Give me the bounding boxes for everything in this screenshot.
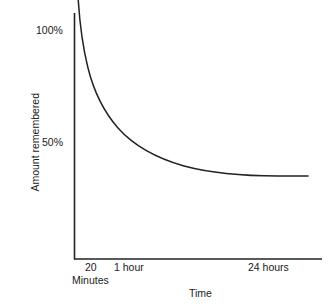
x-tick-label-1-hour: 1 hour [114, 262, 144, 273]
x-tick-label-24-hours: 24 hours [248, 262, 289, 273]
y-tick-label-100: 100% [36, 25, 63, 36]
x-axis-unit-note: Minutes [72, 275, 109, 286]
forgetting-curve-line [78, 0, 308, 176]
x-axis-title: Time [189, 288, 212, 299]
x-tick-label-20: 20 [85, 262, 97, 273]
y-axis-title: Amount remembered [30, 82, 41, 202]
y-tick-label-50: 50% [42, 137, 63, 148]
forgetting-curve-chart: 100% 50% 20 1 hour 24 hours Minutes Time… [0, 0, 333, 308]
